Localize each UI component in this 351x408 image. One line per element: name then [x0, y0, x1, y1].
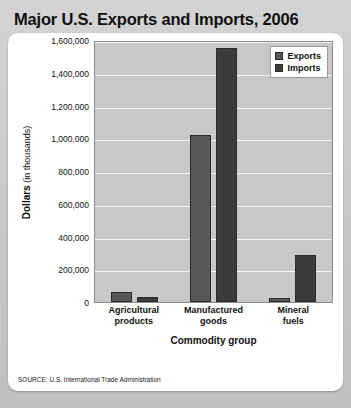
y-axis-tick-label: 800,000 [58, 167, 89, 177]
x-axis-category-labels: AgriculturalproductsManufacturedgoodsMin… [94, 305, 333, 327]
bar-exports [190, 135, 211, 302]
plot-area-wrapper: Dollars (in thousands) 0200,000400,00060… [16, 41, 335, 341]
chart-legend: Exports Imports [270, 46, 328, 78]
legend-swatch-exports-icon [275, 52, 283, 60]
x-axis-category-label-line: Mineral [253, 305, 333, 316]
x-axis-category-label-line: fuels [253, 316, 333, 327]
bar-group [174, 42, 253, 302]
bar-exports [111, 292, 132, 303]
bar-imports [295, 255, 316, 302]
y-axis-tick-label: 1,600,000 [51, 36, 89, 46]
bar-groups [95, 42, 332, 302]
bar-group [95, 42, 174, 302]
y-axis-tick-label: 600,000 [58, 200, 89, 210]
source-note: SOURCE: U.S. International Trade Adminis… [18, 376, 161, 383]
y-axis-title-weak: (in thousands) [23, 125, 33, 185]
chart-figure: Major U.S. Exports and Imports, 2006 Dol… [0, 0, 351, 408]
y-axis-tick-label: 200,000 [58, 265, 89, 275]
x-axis-category-label-line: goods [174, 316, 254, 327]
legend-item-imports: Imports [275, 62, 321, 74]
legend-label-imports: Imports [287, 62, 320, 74]
x-axis-category-label-line: products [94, 316, 174, 327]
y-axis-title-strong: Dollars [22, 185, 33, 219]
x-axis-category-label-line: Manufactured [174, 305, 254, 316]
bar-exports [269, 298, 290, 302]
x-axis-category-label: Agriculturalproducts [94, 305, 174, 327]
legend-label-exports: Exports [287, 50, 321, 62]
chart-card: Dollars (in thousands) 0200,000400,00060… [8, 33, 343, 391]
legend-item-exports: Exports [275, 50, 321, 62]
plot-area: Exports Imports [94, 41, 333, 303]
x-axis-category-label: Manufacturedgoods [174, 305, 254, 327]
x-axis-category-label-line: Agricultural [94, 305, 174, 316]
y-axis-tick-label: 0 [84, 298, 89, 308]
bar-imports [137, 297, 158, 302]
x-axis-title: Commodity group [94, 335, 333, 346]
legend-swatch-imports-icon [275, 64, 283, 72]
y-axis-ticks: 0200,000400,000600,000800,0001,000,0001,… [34, 41, 92, 303]
x-axis-category-label: Mineralfuels [253, 305, 333, 327]
y-axis-tick-label: 1,200,000 [51, 102, 89, 112]
y-axis-tick-label: 1,000,000 [51, 134, 89, 144]
bar-imports [216, 48, 237, 302]
chart-title: Major U.S. Exports and Imports, 2006 [8, 6, 343, 33]
y-axis-tick-label: 400,000 [58, 233, 89, 243]
bar-group [253, 42, 332, 302]
y-axis-tick-label: 1,400,000 [51, 69, 89, 79]
